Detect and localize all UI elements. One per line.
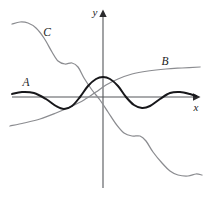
curve-c-label: C [43, 26, 51, 38]
graph-figure: y x A B C [0, 0, 209, 200]
curve-a-label: A [21, 76, 30, 88]
curve-c [12, 22, 202, 176]
x-axis-label: x [193, 101, 199, 113]
graph-canvas: y x A B C [0, 0, 209, 200]
y-axis-label: y [92, 6, 98, 18]
y-axis-arrow-icon [99, 10, 106, 18]
curve-b-label: B [161, 55, 168, 67]
curve-a [12, 77, 196, 109]
